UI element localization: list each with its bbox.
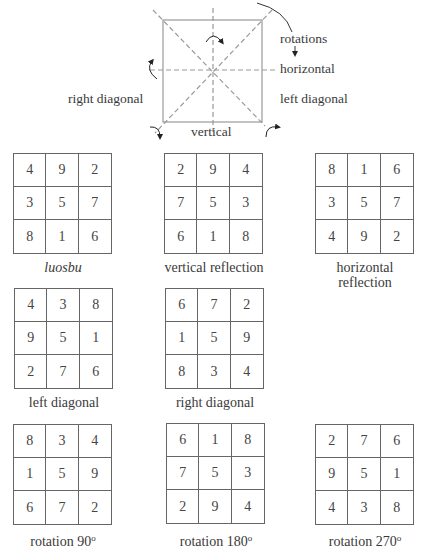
cell: 5 xyxy=(46,458,78,491)
cell: 3 xyxy=(316,187,348,220)
cell: 8 xyxy=(14,425,46,458)
magic-square-rotation-90: 8 3 4 1 5 9 6 7 2 xyxy=(13,424,112,525)
cell: 1 xyxy=(46,220,78,253)
cell: 7 xyxy=(79,187,111,220)
cell: 9 xyxy=(15,322,47,355)
label-right-diagonal: right diagonal xyxy=(68,91,143,107)
cell: 4 xyxy=(15,289,47,322)
magic-square-rotation-180: 6 1 8 7 5 3 2 9 4 xyxy=(166,423,265,524)
cell: 8 xyxy=(381,491,413,524)
cell: 3 xyxy=(198,355,230,388)
cell: 7 xyxy=(47,355,79,388)
caption-horizontal-reflection: horizontal reflection xyxy=(285,260,424,290)
magic-square-vertical-reflection: 2 9 4 7 5 3 6 1 8 xyxy=(164,153,263,254)
cell: 6 xyxy=(165,220,197,253)
cell: 4 xyxy=(14,154,46,187)
cell: 6 xyxy=(381,154,413,187)
cell: 8 xyxy=(316,154,348,187)
degree-symbol: o xyxy=(248,533,253,543)
magic-square-right-diagonal: 6 7 2 1 5 9 8 3 4 xyxy=(165,288,264,389)
magic-square-rotation-270: 2 7 6 9 5 1 4 3 8 xyxy=(315,424,414,525)
cell: 9 xyxy=(348,220,380,253)
cell: 5 xyxy=(197,187,229,220)
cell: 2 xyxy=(165,154,197,187)
cell: 5 xyxy=(199,457,231,490)
cell: 9 xyxy=(199,490,231,523)
cell: 2 xyxy=(15,355,47,388)
degree-symbol: o xyxy=(91,533,96,543)
cell: 3 xyxy=(230,187,262,220)
symmetry-diagram: rotations horizontal left diagonal right… xyxy=(0,0,424,145)
cell: 8 xyxy=(230,220,262,253)
left-diagonal-axis xyxy=(153,10,265,126)
caption-rotation-270: rotation 270o xyxy=(285,531,424,549)
caption-text: rotation 90 xyxy=(30,534,91,549)
cell: 1 xyxy=(348,154,380,187)
cell: 9 xyxy=(231,322,263,355)
cell: 5 xyxy=(198,322,230,355)
caption-text: rotation 270 xyxy=(329,534,397,549)
cell: 6 xyxy=(167,424,199,457)
cell: 3 xyxy=(46,425,78,458)
cell: 6 xyxy=(79,220,111,253)
caption-right-diagonal: right diagonal xyxy=(135,395,295,410)
cell: 2 xyxy=(381,220,413,253)
cell: 2 xyxy=(79,491,111,524)
cell: 1 xyxy=(80,322,112,355)
cell: 4 xyxy=(230,154,262,187)
cell: 6 xyxy=(381,425,413,458)
cell: 3 xyxy=(47,289,79,322)
cell: 1 xyxy=(197,220,229,253)
label-horizontal: horizontal xyxy=(280,61,335,77)
caption-rotation-90: rotation 90o xyxy=(0,531,143,549)
cell: 7 xyxy=(165,187,197,220)
cell: 9 xyxy=(197,154,229,187)
magic-square-left-diagonal: 4 3 8 9 5 1 2 7 6 xyxy=(14,288,113,389)
vertical-flip-arrow-icon xyxy=(206,36,222,42)
label-vertical: vertical xyxy=(191,124,231,140)
cell: 4 xyxy=(232,490,264,523)
cell: 4 xyxy=(316,491,348,524)
magic-square-horizontal-reflection: 8 1 6 3 5 7 4 9 2 xyxy=(315,153,414,254)
cell: 4 xyxy=(231,355,263,388)
cell: 3 xyxy=(348,491,380,524)
label-left-diagonal: left diagonal xyxy=(280,91,348,107)
cell: 7 xyxy=(348,425,380,458)
right-diagonal-flip-arrow-icon xyxy=(150,127,160,137)
cell: 1 xyxy=(14,458,46,491)
caption-rotation-180: rotation 180o xyxy=(136,531,296,549)
cell: 8 xyxy=(232,424,264,457)
cell: 5 xyxy=(46,187,78,220)
caption-text: rotation 180 xyxy=(180,534,248,549)
cell: 9 xyxy=(79,458,111,491)
cell: 6 xyxy=(80,355,112,388)
cell: 1 xyxy=(199,424,231,457)
cell: 2 xyxy=(79,154,111,187)
cell: 7 xyxy=(167,457,199,490)
left-diagonal-flip-arrow-icon xyxy=(266,127,278,137)
cell: 8 xyxy=(80,289,112,322)
cell: 9 xyxy=(46,154,78,187)
cell: 3 xyxy=(232,457,264,490)
cell: 3 xyxy=(14,187,46,220)
caption-line: reflection xyxy=(285,275,424,290)
magic-square-luosbu: 4 9 2 3 5 7 8 1 6 xyxy=(13,153,112,254)
cell: 7 xyxy=(46,491,78,524)
cell: 2 xyxy=(231,289,263,322)
cell: 7 xyxy=(381,187,413,220)
caption-vertical-reflection: vertical reflection xyxy=(134,260,294,275)
cell: 8 xyxy=(166,355,198,388)
label-rotations: rotations xyxy=(280,31,327,47)
degree-symbol: o xyxy=(397,533,402,543)
cell: 2 xyxy=(316,425,348,458)
cell: 6 xyxy=(166,289,198,322)
cell: 5 xyxy=(348,187,380,220)
caption-luosbu: luosbu xyxy=(0,260,143,275)
cell: 2 xyxy=(167,490,199,523)
cell: 4 xyxy=(79,425,111,458)
caption-left-diagonal: left diagonal xyxy=(0,395,144,410)
cell: 1 xyxy=(381,458,413,491)
cell: 9 xyxy=(316,458,348,491)
caption-line: horizontal xyxy=(285,260,424,275)
cell: 7 xyxy=(198,289,230,322)
